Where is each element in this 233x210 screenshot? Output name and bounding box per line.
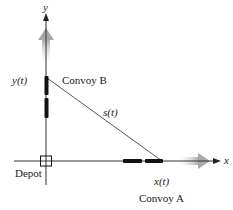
y-axis-label: y [42,1,48,13]
y-of-t-label: y(t) [11,74,28,87]
x-of-t-label: x(t) [153,175,170,188]
x-axis-arrowhead [213,158,221,164]
distance-line [47,78,162,161]
y-axis-arrowhead [43,13,49,21]
y-of-t-text: y(t) [11,74,28,87]
convoy-a-label: Convoy A [139,192,184,204]
distance-label: s(t) [103,106,118,119]
convoy-b-label: Convoy B [62,74,107,86]
x-axis-label: x [223,154,229,166]
depot-label: Depot [15,167,42,179]
convoy-diagram: y x s(t) y(t) Convoy B Depot x(t) Convoy… [0,0,233,210]
